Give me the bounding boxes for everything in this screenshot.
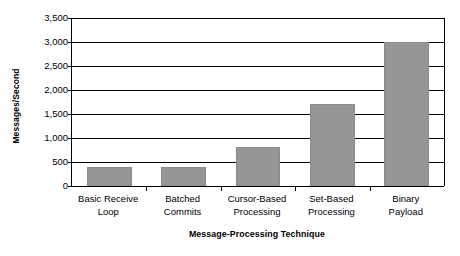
gridline [72, 18, 444, 19]
x-axis-tickmark [146, 186, 147, 191]
bar [87, 167, 132, 186]
y-axis-tickmark [68, 90, 72, 91]
y-axis-tickmark [68, 138, 72, 139]
y-axis-tickmark [68, 162, 72, 163]
y-axis-tick-label: 1,000 [18, 133, 68, 143]
y-axis-tick-label: 2,500 [18, 61, 68, 71]
y-axis-tick-label: 3,500 [18, 13, 68, 23]
y-axis-tick-label: 3,000 [18, 37, 68, 47]
x-axis-tickmark [295, 186, 296, 191]
y-axis-tick-label: 2,000 [18, 85, 68, 95]
x-axis-tickmark [370, 186, 371, 191]
x-axis-tick-labels: Basic Receive LoopBatched CommitsCursor-… [71, 192, 443, 226]
x-axis-tick-label: Cursor-Based Processing [220, 192, 294, 218]
x-axis-tickmark [221, 186, 222, 191]
bar [161, 167, 206, 186]
y-axis-tickmark [68, 18, 72, 19]
y-axis-tick-label: 1,500 [18, 109, 68, 119]
x-axis-tick-label: Batched Commits [145, 192, 219, 218]
y-axis-tickmark [68, 66, 72, 67]
x-axis-title: Message-Processing Technique [71, 229, 443, 239]
bar [384, 42, 429, 186]
x-axis-tick-label: Basic Receive Loop [71, 192, 145, 218]
x-axis-tick-label: Set-Based Processing [294, 192, 368, 218]
bar [310, 104, 355, 186]
y-axis-tick-label: 0 [18, 181, 68, 191]
y-axis-tick-label: 500 [18, 157, 68, 167]
bar-chart: Messages/Second 05001,0001,5002,0002,500… [0, 0, 460, 256]
y-axis-tick-labels: 05001,0001,5002,0002,5003,0003,500 [18, 0, 68, 256]
y-axis-tickmark [68, 114, 72, 115]
bar [236, 147, 281, 186]
y-axis-tickmark [68, 186, 72, 187]
x-axis-tick-label: Binary Payload [369, 192, 443, 218]
plot-border-right [444, 18, 445, 186]
plot-area [71, 18, 444, 187]
y-axis-tickmark [68, 42, 72, 43]
